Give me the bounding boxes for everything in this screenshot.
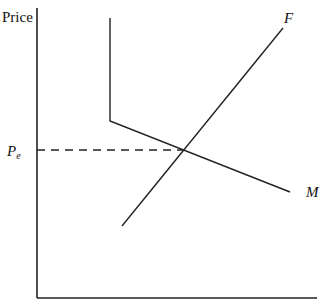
curve-f bbox=[122, 28, 283, 226]
curve-m bbox=[110, 18, 290, 192]
y-axis-label: Price bbox=[2, 9, 33, 25]
price-level-label: Pe bbox=[6, 143, 21, 161]
curve-f-label: F bbox=[283, 10, 294, 26]
curve-m-label: M bbox=[305, 184, 320, 200]
kinked-demand-diagram: Price Pe F M bbox=[0, 0, 327, 302]
